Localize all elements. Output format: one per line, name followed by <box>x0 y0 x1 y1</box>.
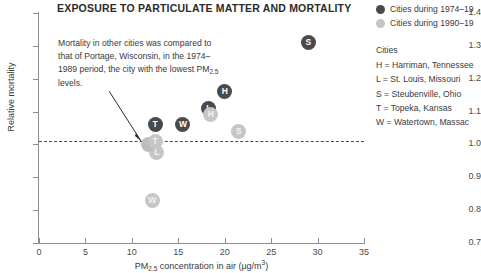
datapoint-w[interactable]: W <box>145 193 160 208</box>
legend-item-period-late[interactable]: Cities during 1990–19 <box>376 16 481 30</box>
legend-item-period-early[interactable]: Cities during 1974–19 <box>376 2 481 16</box>
reference-line-baseline <box>39 141 364 142</box>
x-axis-label-prefix: PM <box>135 261 149 271</box>
legend-series: Cities during 1974–19Cities during 1990–… <box>376 2 481 30</box>
x-axis-tick-label: 0 <box>24 247 54 257</box>
y-axis-tick <box>33 112 39 113</box>
legend-cities-heading: Cities <box>376 43 481 57</box>
y-axis-tick <box>33 243 39 244</box>
datapoint-t[interactable]: T <box>148 134 163 149</box>
y-axis-label: Relative mortality <box>6 42 16 152</box>
x-axis-tick <box>225 238 226 244</box>
y-axis-tick <box>33 46 39 47</box>
datapoint-h[interactable]: H <box>217 84 232 99</box>
x-axis-label: PM2.5 concentration in air (μg/m3) <box>39 261 364 271</box>
x-axis-tick-label: 35 <box>349 247 379 257</box>
datapoint-w[interactable]: W <box>175 117 190 132</box>
datapoint-h[interactable]: H <box>203 107 218 122</box>
legend-swatch-icon <box>376 19 385 28</box>
y-axis-tick <box>33 79 39 80</box>
annotation-callout: Mortality in other cities was compared t… <box>58 37 224 90</box>
legend-city-key: S = Steubenville, Ohio <box>376 87 481 101</box>
x-axis-label-superscript: 3 <box>262 259 266 266</box>
legend-swatch-icon <box>376 5 385 14</box>
x-axis-tick <box>39 238 40 244</box>
y-axis-tick <box>33 177 39 178</box>
datapoint-s[interactable]: S <box>231 124 246 139</box>
x-axis-tick <box>178 238 179 244</box>
page-title: EXPOSURE TO PARTICULATE MATTER AND MORTA… <box>57 2 351 14</box>
legend-item-label: Cities during 1990–19 <box>390 18 474 28</box>
x-axis-tick <box>271 238 272 244</box>
x-axis-tick-label: 20 <box>210 247 240 257</box>
x-axis-tick <box>364 238 365 244</box>
legend-city-key: W = Watertown, Massac <box>376 115 481 129</box>
y-axis-tick <box>33 144 39 145</box>
datapoint-s[interactable]: S <box>301 35 316 50</box>
x-axis-tick-label: 5 <box>70 247 100 257</box>
annotation-subscript: 2.5 <box>209 68 218 75</box>
x-axis-tick-label: 10 <box>117 247 147 257</box>
legend-item-label: Cities during 1974–19 <box>390 4 474 14</box>
y-axis-tick-label: 0.9 <box>455 171 481 181</box>
datapoint-t[interactable]: T <box>148 117 163 132</box>
x-axis-tick-label: 15 <box>163 247 193 257</box>
x-axis-line <box>38 243 365 244</box>
y-axis-tick <box>33 210 39 211</box>
legend-city-key: H = Harriman, Tennessee <box>376 58 481 72</box>
x-axis-tick <box>85 238 86 244</box>
x-axis-label-middle: concentration in air (μg/m <box>157 261 261 271</box>
x-axis-label-subscript: 2.5 <box>148 265 157 272</box>
legend-city-keys: Cities H = Harriman, TennesseeL = St. Lo… <box>376 43 481 129</box>
y-axis-tick-label: 1.0 <box>455 138 481 148</box>
x-axis-tick <box>318 238 319 244</box>
x-axis-label-end: ) <box>265 261 268 271</box>
legend-city-key: L = St. Louis, Missouri <box>376 72 481 86</box>
x-axis-tick-label: 30 <box>303 247 333 257</box>
legend-city-key: T = Topeka, Kansas <box>376 101 481 115</box>
y-axis-tick <box>33 13 39 14</box>
y-axis-tick-label: 0.7 <box>455 237 481 247</box>
chart-figure: EXPOSURE TO PARTICULATE MATTER AND MORTA… <box>0 0 481 273</box>
x-axis-tick-label: 25 <box>256 247 286 257</box>
legend-cities-list: H = Harriman, TennesseeL = St. Louis, Mi… <box>376 58 481 129</box>
y-axis-tick-label: 0.8 <box>455 204 481 214</box>
x-axis-tick <box>132 238 133 244</box>
